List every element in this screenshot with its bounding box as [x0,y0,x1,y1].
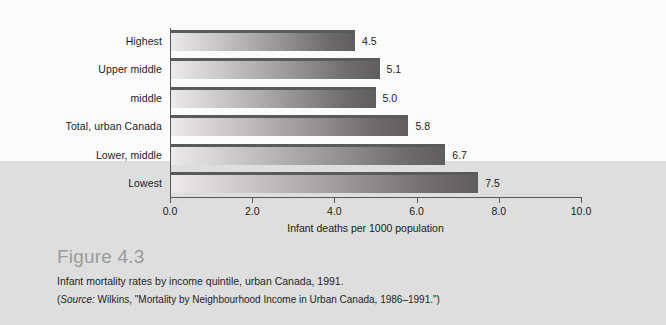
bar-row: Total, urban Canada5.8 [0,113,666,139]
category-label: middle [130,92,162,104]
bar-row: middle5.0 [0,85,666,111]
bar[interactable] [170,30,355,51]
bar-value-label: 4.5 [362,35,377,47]
figure-page: Highest4.5Upper middle5.1middle5.0Total,… [0,0,666,325]
bar-row: Highest4.5 [0,28,666,54]
figure-source: (Source: Wilkins, "Mortality by Neighbou… [57,293,617,306]
x-axis-tick-label: 4.0 [327,205,342,217]
bar-row: Upper middle5.1 [0,56,666,82]
bar[interactable] [170,144,445,165]
x-axis-tick [334,198,335,203]
category-label: Total, urban Canada [66,120,162,132]
bar[interactable] [170,172,478,193]
x-axis-line [170,197,582,198]
x-axis-tick-label: 10.0 [571,205,591,217]
bar[interactable] [170,87,376,108]
figure-description: Infant mortality rates by income quintil… [57,275,617,289]
x-axis-tick [499,198,500,203]
x-axis-tick [170,198,171,203]
figure-source-citation: Wilkins, "Mortality by Neighbourhood Inc… [95,294,440,305]
category-label: Lower, middle [96,149,162,161]
bar[interactable] [170,58,380,79]
x-axis-tick-label: 2.0 [245,205,260,217]
bar-row: Lower, middle6.7 [0,142,666,168]
bar-value-label: 5.1 [387,63,402,75]
x-axis-tick [581,198,582,203]
bar-value-label: 6.7 [452,149,467,161]
bar-row: Lowest7.5 [0,170,666,196]
x-axis-tick [252,198,253,203]
x-axis-tick-label: 6.0 [409,205,424,217]
bar-value-label: 7.5 [485,177,500,189]
x-axis-tick-label: 0.0 [163,205,178,217]
category-label: Lowest [128,177,162,189]
category-label: Upper middle [98,63,162,75]
x-axis-tick [417,198,418,203]
x-axis-tick-label: 8.0 [491,205,506,217]
y-axis-line [170,28,171,197]
category-label: Highest [126,35,162,47]
bar-chart-plot: Highest4.5Upper middle5.1middle5.0Total,… [0,0,666,245]
figure-caption: Figure 4.3 Infant mortality rates by inc… [57,246,617,306]
figure-source-label: Source: [60,294,94,305]
figure-number: Figure 4.3 [57,246,617,268]
bar-value-label: 5.8 [415,120,430,132]
bar-value-label: 5.0 [383,92,398,104]
x-axis-title: Infant deaths per 1000 population [287,222,443,234]
bar[interactable] [170,115,408,136]
